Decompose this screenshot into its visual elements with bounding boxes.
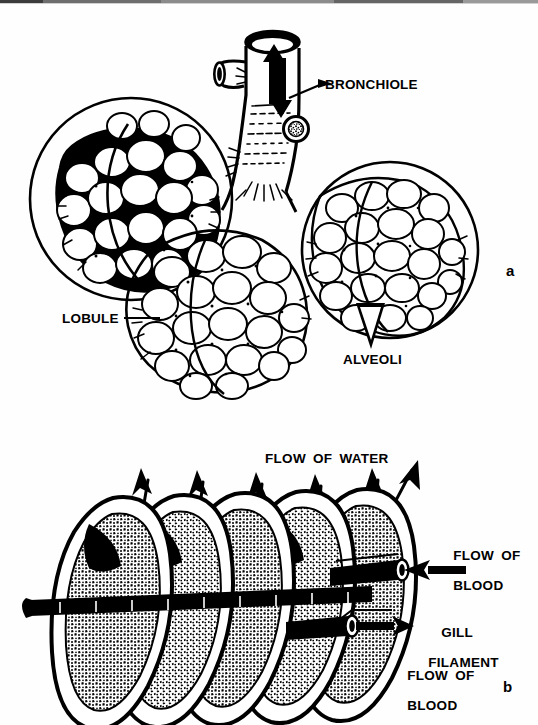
label-alveoli: ALVEOLI [343,352,402,367]
bronchiole-cross-section-inset [284,117,309,142]
figure-canvas: BRONCHIOLE LOBULE ALVEOLI a [0,0,538,725]
label-flow-of-water: FLOW OF WATER [265,451,389,466]
label-lobule: LOBULE [62,311,119,326]
label-flow-of-blood-lower-line2: BLOOD [407,698,457,713]
label-flow-of-blood-upper-line1: FLOW OF [453,548,520,563]
panel-marker-b: b [503,678,512,695]
lobule-right [302,162,478,338]
label-flow-of-blood-lower: FLOW OF BLOOD [379,653,453,725]
label-flow-of-blood-upper: FLOW OF BLOOD [425,533,495,609]
panel-marker-a: a [506,262,514,279]
label-bronchiole: BRONCHIOLE [325,77,418,92]
panel-a-lung-illustration [0,0,538,420]
label-flow-of-blood-lower-line1: FLOW OF [407,668,474,683]
label-flow-of-blood-upper-line2: BLOOD [453,578,503,593]
label-gill-filament-line1: GILL [441,625,473,640]
